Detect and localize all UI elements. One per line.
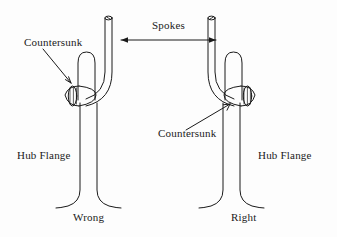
spokes-dimension-arrow [121, 37, 216, 42]
label-hub-flange-left: Hub Flange [17, 149, 71, 161]
caption-wrong: Wrong [73, 211, 104, 223]
label-hub-flange-right: Hub Flange [258, 149, 312, 161]
label-countersunk-right: Countersunk [158, 127, 216, 139]
hub-flange-right [199, 103, 264, 208]
spoke-elbow-right [208, 16, 234, 106]
spoke-stub-left [78, 52, 95, 100]
spoke-stub-right [225, 52, 242, 100]
left-callout-arrow [43, 49, 71, 83]
label-spokes: Spokes [152, 19, 185, 31]
diagram-canvas: Spokes Countersunk Countersunk Hub Flang… [0, 0, 337, 237]
right-panel-group [186, 16, 264, 208]
label-countersunk-left: Countersunk [24, 36, 82, 48]
caption-right: Right [231, 211, 256, 223]
spoke-elbow-left [86, 16, 112, 106]
